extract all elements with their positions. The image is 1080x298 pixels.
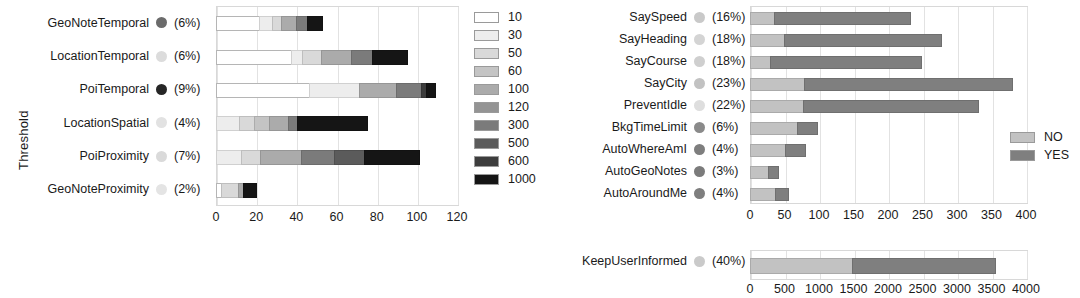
legend-label: YES xyxy=(1044,148,1069,162)
bar-saycity xyxy=(751,78,1013,91)
keepuserinformed-x-axis: 05001000150020002500300035004000 xyxy=(750,282,1028,298)
legend-swatch xyxy=(474,102,499,113)
row-label-saycity: SayCity(23%) xyxy=(560,74,750,92)
bar-bkgtimelimit xyxy=(751,122,818,135)
row-label-name: LocationTemporal xyxy=(50,49,149,63)
row-marker-dot xyxy=(694,78,705,89)
x-tick-label: 1500 xyxy=(840,282,868,296)
bar-segment-YES xyxy=(770,56,922,69)
row-label-name: AutoWhereAmI xyxy=(602,142,687,156)
row-label-percent: (22%) xyxy=(712,98,750,112)
bar-poitemporal xyxy=(217,83,436,98)
bar-segment-10 xyxy=(216,50,292,65)
legend-swatch xyxy=(474,120,499,131)
bar-segment-10 xyxy=(216,83,310,98)
row-marker-dot xyxy=(694,122,705,133)
row-label-percent: (6%) xyxy=(174,49,212,63)
bar-segment-NO xyxy=(750,166,769,179)
gridline-vertical xyxy=(257,7,258,205)
row-label-percent: (18%) xyxy=(712,54,750,68)
row-label-percent: (2%) xyxy=(174,182,212,196)
row-label-sayspeed: SaySpeed(16%) xyxy=(560,8,750,26)
threshold-legend: 103050601001203005006001000 xyxy=(474,8,536,188)
bar-segment-50 xyxy=(239,116,255,131)
row-label-percent: (23%) xyxy=(712,76,750,90)
legend-swatch xyxy=(1010,132,1035,143)
x-tick-label: 300 xyxy=(947,208,968,222)
bar-geonoteproximity xyxy=(217,183,257,198)
bar-segment-50 xyxy=(241,150,261,165)
row-label-name: SayCity xyxy=(644,76,687,90)
bar-segment-YES xyxy=(785,144,806,157)
row-marker-dot xyxy=(694,144,705,155)
bar-segment-1000 xyxy=(297,116,367,131)
bar-segment-300 xyxy=(396,83,422,98)
legend-swatch xyxy=(474,174,499,185)
x-tick-label: 120 xyxy=(447,210,468,224)
bar-segment-YES xyxy=(775,188,789,201)
threshold-x-axis: 020406080100120 xyxy=(216,210,459,230)
legend-item-300: 300 xyxy=(474,116,536,134)
row-label-name: GeoNoteProximity xyxy=(48,182,149,196)
legend-item-30: 30 xyxy=(474,26,536,44)
bar-segment-60 xyxy=(254,116,270,131)
legend-label: 30 xyxy=(508,28,522,42)
gridline-vertical xyxy=(1027,251,1028,279)
bar-autogeonotes xyxy=(751,166,779,179)
legend-item-600: 600 xyxy=(474,152,536,170)
row-label-saycourse: SayCourse(18%) xyxy=(560,52,750,70)
bar-segment-YES xyxy=(803,100,980,113)
legend-item-60: 60 xyxy=(474,62,536,80)
bar-segment-YES xyxy=(804,78,1013,91)
legend-item-500: 500 xyxy=(474,134,536,152)
legend-swatch xyxy=(474,84,499,95)
x-tick-label: 500 xyxy=(774,282,795,296)
row-label-name: PreventIdle xyxy=(624,98,687,112)
x-tick-label: 3000 xyxy=(943,282,971,296)
x-tick-label: 80 xyxy=(370,210,384,224)
bar-segment-1000 xyxy=(364,150,420,165)
bar-locationspatial xyxy=(217,116,368,131)
row-marker-dot xyxy=(156,17,167,28)
bar-segment-NO xyxy=(750,34,785,47)
bar-autowhereami xyxy=(751,144,806,157)
bar-segment-1000 xyxy=(307,16,323,31)
row-label-percent: (4%) xyxy=(712,186,750,200)
bar-segment-300 xyxy=(351,50,373,65)
settings-chart-panel: SaySpeed(16%)SayHeading(18%)SayCourse(18… xyxy=(560,0,1080,298)
bar-segment-NO xyxy=(750,56,771,69)
bar-segment-30 xyxy=(216,150,242,165)
legend-swatch xyxy=(474,30,499,41)
x-tick-label: 60 xyxy=(330,210,344,224)
row-marker-dot xyxy=(694,100,705,111)
row-label-percent: (4%) xyxy=(712,142,750,156)
row-label-percent: (3%) xyxy=(712,164,750,178)
settings-x-axis: 050100150200250300350400 xyxy=(750,208,1028,228)
legend-swatch xyxy=(474,156,499,167)
bar-segment-300 xyxy=(301,150,335,165)
legend-label: 600 xyxy=(508,154,529,168)
settings-plot-area xyxy=(750,6,1028,204)
row-label-percent: (16%) xyxy=(712,10,750,24)
legend-item-1000: 1000 xyxy=(474,170,536,188)
bar-segment-NO xyxy=(750,78,805,91)
row-label-name: GeoNoteTemporal xyxy=(48,16,149,30)
keepuserinformed-plot-area xyxy=(750,250,1028,280)
legend-label: 300 xyxy=(508,118,529,132)
row-label-name: BkgTimeLimit xyxy=(612,120,687,134)
row-label-geonoteproximity: GeoNoteProximity(2%) xyxy=(10,180,212,198)
bar-segment-YES xyxy=(774,12,911,25)
row-label-percent: (18%) xyxy=(712,32,750,46)
bar-segment-NO xyxy=(750,258,853,274)
x-tick-label: 20 xyxy=(249,210,263,224)
row-label-locationspatial: LocationSpatial(4%) xyxy=(10,114,212,132)
bar-segment-100 xyxy=(260,150,302,165)
bar-saycourse xyxy=(751,56,922,69)
bar-sayspeed xyxy=(751,12,911,25)
gridline-vertical xyxy=(378,7,379,205)
threshold-row-labels: GeoNoteTemporal(6%)LocationTemporal(6%)P… xyxy=(10,0,212,210)
bar-segment-YES xyxy=(797,122,818,135)
row-label-name: SaySpeed xyxy=(629,10,687,24)
row-label-preventidle: PreventIdle(22%) xyxy=(560,96,750,114)
row-marker-dot xyxy=(694,34,705,45)
